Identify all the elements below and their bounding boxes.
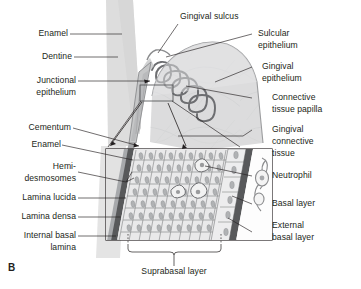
label-basal-layer: Basal layer: [272, 198, 315, 210]
label-internal-basal-lamina-line2: lamina: [50, 242, 76, 254]
label-gingival-connective-tissue-line3: tissue: [272, 148, 295, 160]
label-enamel-top: Enamel: [39, 28, 68, 40]
label-gingival-connective-tissue-line1: Gingival: [272, 124, 303, 136]
label-external-basal-layer-line1: External: [272, 220, 304, 232]
panel-letter-b: B: [8, 262, 15, 273]
label-sulcular-epithelium-line1: Sulcular: [258, 28, 289, 40]
label-suprabasal-layer: Suprabasal layer: [128, 266, 220, 278]
label-lamina-lucida: Lamina lucida: [22, 192, 76, 204]
label-gingival-epithelium-line1: Gingival: [262, 61, 293, 73]
label-internal-basal-lamina-line1: Internal basal: [24, 230, 76, 242]
label-external-basal-layer-line2: basal layer: [272, 232, 314, 244]
label-neutrophil: Neutrophil: [272, 170, 312, 182]
leader-lines-top: [158, 24, 178, 53]
magnified-inset-panel: [92, 149, 275, 241]
label-hemidesmosomes-line1: Hemi-: [53, 161, 76, 173]
label-enamel-inset: Enamel: [32, 139, 61, 151]
label-connective-tissue-papilla-line2: tissue papilla: [272, 104, 322, 116]
label-hemidesmosomes-line2: desmosomes: [24, 173, 76, 185]
label-junctional-epithelium-line2: epithelium: [36, 87, 76, 99]
label-gingival-sulcus: Gingival sulcus: [180, 11, 239, 23]
label-gingival-epithelium-line2: epithelium: [262, 73, 302, 85]
anatomical-figure-panel-b: Enamel Dentine Junctional epithelium Cem…: [0, 0, 361, 289]
leader-gingival-sulcus: [158, 24, 178, 53]
label-gingival-connective-tissue-line2: connective: [272, 136, 314, 148]
label-dentine: Dentine: [42, 51, 72, 63]
label-junctional-epithelium-line1: Junctional: [37, 75, 76, 87]
label-cementum: Cementum: [29, 122, 71, 134]
label-lamina-densa: Lamina densa: [21, 211, 76, 223]
label-connective-tissue-papilla-line1: Connective: [272, 92, 316, 104]
label-sulcular-epithelium-line2: epithelium: [258, 40, 298, 52]
